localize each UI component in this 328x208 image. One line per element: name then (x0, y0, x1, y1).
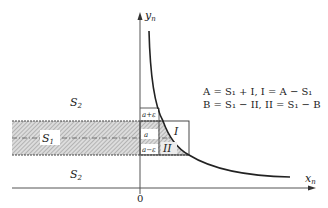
diagram-canvas: yn xn 0 S2 S1 S2 I II a+ε a a−ε A = S₁ +… (0, 0, 328, 208)
level-upper-label: a+ε (142, 111, 156, 119)
origin-label: 0 (137, 193, 143, 204)
x-axis-label: xn (305, 172, 316, 186)
equation-line-2: B = S₁ − II, II = S₁ − B (203, 99, 321, 110)
level-middle-label: a (144, 131, 148, 139)
region-ii-label: II (162, 142, 172, 155)
y-axis-arrow-icon (138, 12, 143, 20)
x-axis-arrow-icon (308, 186, 316, 191)
y-axis-label: yn (144, 9, 156, 23)
equation-line-1: A = S₁ + I, I = A − S₁ (202, 86, 312, 97)
level-lower-label: a−ε (142, 146, 156, 154)
region-i-label: I (173, 125, 179, 138)
region-s2-bottom-label: S2 (70, 168, 83, 182)
region-s2-top-label: S2 (70, 96, 83, 110)
